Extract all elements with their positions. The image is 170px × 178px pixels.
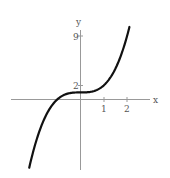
x-tick-label-2: 2: [124, 104, 130, 114]
x-tick-label-1: 1: [101, 104, 107, 114]
y-tick-label-9: 9: [73, 32, 79, 42]
cubic-function-plot: y x 1 2 2 9: [0, 0, 170, 178]
y-axis-label: y: [75, 17, 82, 27]
cubic-curve: [29, 27, 129, 168]
y-tick-label-2: 2: [73, 81, 79, 91]
x-axis-label: x: [153, 95, 158, 105]
